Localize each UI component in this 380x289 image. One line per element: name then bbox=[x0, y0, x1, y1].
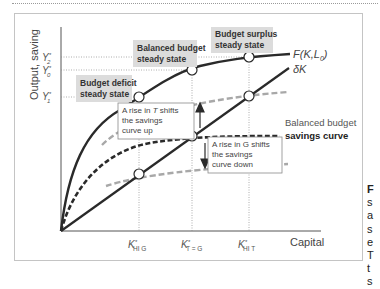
x-tick-k-t-eq-g: K*T = G bbox=[181, 239, 202, 252]
note-rise-in-T-line3: curve up bbox=[122, 126, 153, 135]
note-rise-in-G-line1: A rise in G shifts bbox=[212, 140, 270, 149]
savings-curve-label-line2: savings curve bbox=[285, 130, 348, 141]
note-rise-in-T-line2: the savings bbox=[122, 116, 162, 125]
y-tick-y0: Y*0 bbox=[42, 65, 52, 78]
note-rise-in-G-line2: the savings bbox=[212, 150, 252, 159]
caption-char: e bbox=[367, 236, 380, 249]
depreciation-label: δK bbox=[293, 63, 307, 75]
y-tick-y1: Y*1 bbox=[42, 91, 52, 104]
caption-char: F bbox=[367, 183, 380, 196]
note-rise-in-G-line3: curve down bbox=[212, 160, 253, 169]
caption-char: t bbox=[367, 262, 380, 275]
deficit-label-line2: steady state bbox=[80, 89, 129, 99]
production-function-label: F(K,L0) bbox=[293, 48, 328, 62]
balanced-label-line1: Balanced budget bbox=[137, 43, 206, 53]
x-tick-k-hi-g: K*HI G bbox=[128, 239, 146, 252]
x-axis-label: Capital bbox=[290, 236, 324, 248]
shift-arrows bbox=[196, 103, 209, 168]
balanced-label-line2: steady state bbox=[137, 54, 186, 64]
surplus-label-line2: steady state bbox=[215, 40, 264, 50]
caption-char: s bbox=[367, 196, 380, 209]
caption-char: s bbox=[367, 275, 380, 288]
caption-fragment: F s a s e T t s bbox=[367, 183, 380, 289]
caption-char: a bbox=[367, 209, 380, 222]
note-rise-in-T-line1: A rise in T shifts bbox=[122, 106, 178, 115]
savings-curve-label-line1: Balanced budget bbox=[285, 117, 357, 128]
surplus-label-line1: Budget surplus bbox=[215, 29, 278, 39]
y-axis-label: Output, saving bbox=[28, 29, 40, 100]
caption-char: T bbox=[367, 249, 380, 262]
x-tick-k-hi-t: K*HI T bbox=[238, 239, 255, 252]
y-tick-y2: Y*2 bbox=[42, 52, 52, 65]
caption-char: s bbox=[367, 223, 380, 236]
deficit-label-line1: Budget deficit bbox=[80, 78, 137, 88]
